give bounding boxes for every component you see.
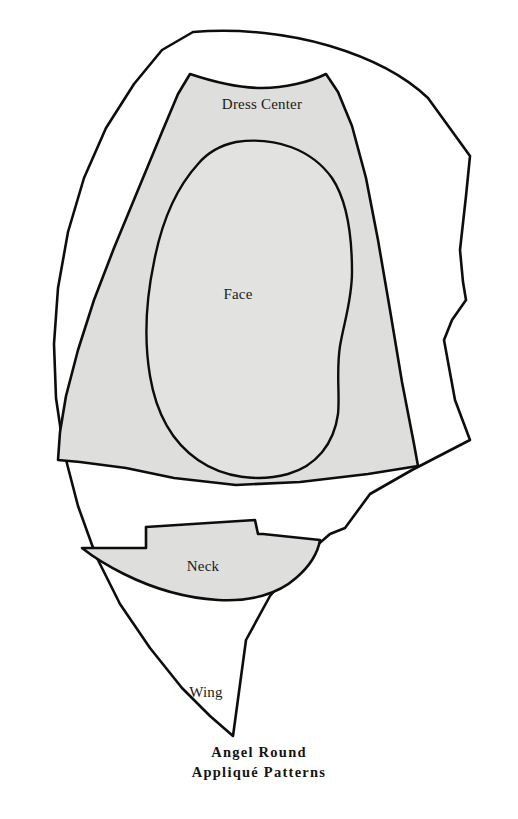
face-piece-shape (147, 141, 352, 478)
caption-line-1: Angel Round (0, 742, 518, 762)
caption-line-2: Appliqué Patterns (0, 762, 518, 782)
pattern-diagram (0, 0, 518, 819)
pattern-sheet: Dress Center Face Neck Wing Angel Round … (0, 0, 518, 819)
sheet-caption: Angel Round Appliqué Patterns (0, 742, 518, 782)
